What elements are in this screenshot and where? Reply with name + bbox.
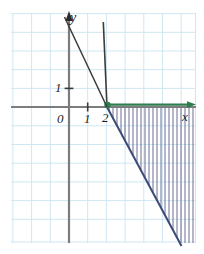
graph-figure: y x 0 1 2 1 <box>0 0 204 254</box>
y-tick-label-1: 1 <box>55 81 62 94</box>
coordinate-plane-svg <box>0 0 204 254</box>
x-intercept-dot <box>104 102 110 108</box>
grid <box>11 13 196 243</box>
x-axis-label: x <box>182 110 188 123</box>
y-axis-label: y <box>70 11 76 25</box>
origin-label: 0 <box>57 112 64 125</box>
x-tick-label-2: 2 <box>102 111 109 124</box>
x-tick-label-1: 1 <box>84 112 91 125</box>
